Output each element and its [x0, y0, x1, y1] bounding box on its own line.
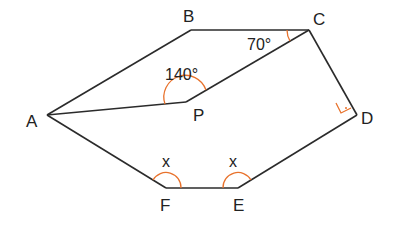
right-angle-dot-D: [345, 107, 347, 109]
angle-arc-F: [153, 172, 181, 188]
vertex-label-B: B: [183, 7, 194, 26]
angle-label-F: x: [162, 153, 170, 170]
vertex-label-C: C: [313, 10, 325, 29]
edge-DE: [238, 115, 357, 188]
angle-arc-C: [287, 30, 290, 41]
angle-label-P: 140°: [165, 66, 198, 83]
edge-CD: [309, 30, 357, 115]
vertex-label-P: P: [193, 106, 204, 125]
angle-label-C: 70°: [247, 36, 271, 53]
vertex-label-E: E: [233, 196, 244, 215]
vertex-label-A: A: [26, 112, 38, 131]
edge-AP: [47, 102, 186, 115]
angle-arc-E: [223, 172, 251, 188]
geometry-diagram: A B C D E F P 140° 70° x x: [0, 0, 397, 228]
vertex-label-D: D: [361, 109, 373, 128]
vertex-label-F: F: [160, 196, 170, 215]
edge-FA: [47, 115, 166, 188]
right-angle-marker-D: [336, 103, 351, 113]
angle-label-E: x: [229, 153, 237, 170]
